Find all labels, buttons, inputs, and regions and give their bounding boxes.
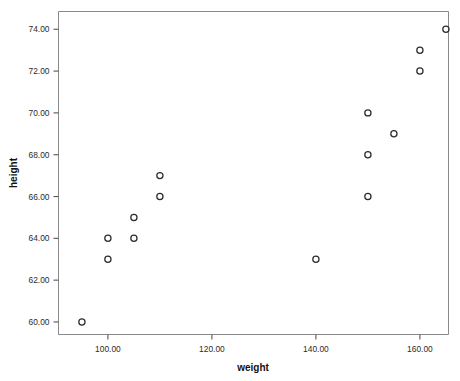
- y-tick-label: 62.00: [29, 275, 50, 285]
- y-tick-label: 74.00: [29, 24, 50, 34]
- x-tick-label: 140.00: [303, 344, 329, 354]
- scatter-plot-canvas: 100.00120.00140.00160.00 60.0062.0064.00…: [0, 0, 460, 381]
- y-tick-label: 68.00: [29, 150, 50, 160]
- y-tick-label: 70.00: [29, 108, 50, 118]
- y-tick-label: 64.00: [29, 233, 50, 243]
- x-axis-title: weight: [236, 362, 269, 373]
- y-tick-label: 60.00: [29, 317, 50, 327]
- x-tick-label: 100.00: [95, 344, 121, 354]
- y-tick-label: 72.00: [29, 66, 50, 76]
- x-tick-label: 120.00: [199, 344, 225, 354]
- y-tick-label: 66.00: [29, 192, 50, 202]
- x-tick-label: 160.00: [407, 344, 433, 354]
- scatter-plot-figure: 100.00120.00140.00160.00 60.0062.0064.00…: [0, 0, 460, 381]
- figure-background: [0, 0, 460, 381]
- y-axis-title: height: [8, 157, 19, 188]
